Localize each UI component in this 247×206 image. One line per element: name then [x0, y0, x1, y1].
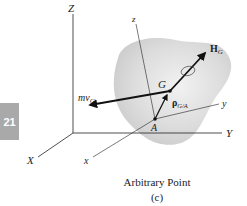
label-A: A: [150, 122, 158, 133]
label-Y: Y: [226, 127, 234, 139]
label-y: y: [221, 98, 227, 109]
label-mvG: mvG: [78, 92, 95, 105]
X-axis: [38, 133, 73, 157]
label-x: x: [83, 155, 89, 166]
label-X: X: [26, 154, 35, 166]
x-axis-local: [93, 119, 155, 157]
figure-caption: Arbitrary Point: [100, 176, 214, 188]
point-A: [153, 117, 157, 121]
point-G: [168, 89, 172, 93]
figure-label: (c): [100, 191, 214, 203]
label-z: z: [131, 14, 136, 24]
label-Z: Z: [68, 2, 75, 14]
label-G: G: [158, 78, 166, 90]
rigid-body-shape: [114, 38, 231, 145]
chapter-tab: 21: [0, 103, 19, 140]
